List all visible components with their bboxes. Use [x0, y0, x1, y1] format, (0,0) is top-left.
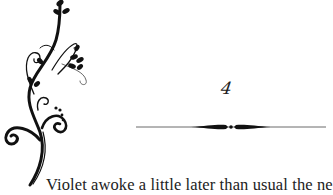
chapter-first-line: Violet awoke a little later than usual t… [46, 175, 333, 195]
floral-vine-ornament-icon [0, 0, 90, 189]
chapter-number: 4 [220, 78, 234, 98]
ornamental-divider-icon [136, 120, 326, 134]
